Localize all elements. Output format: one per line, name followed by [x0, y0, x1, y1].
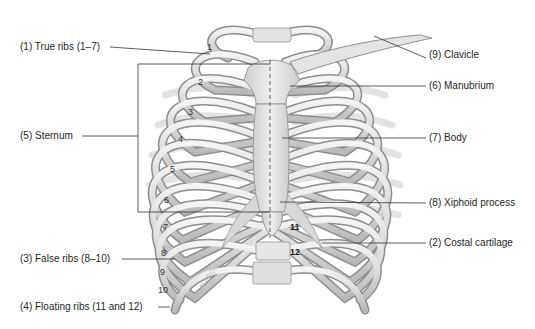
rib-number-2: 2: [198, 77, 203, 87]
rib-number-12: 12: [290, 247, 300, 257]
label-body: (7) Body: [429, 132, 467, 144]
rib-number-4: 4: [178, 134, 183, 144]
rib-number-11: 11: [290, 222, 300, 232]
label-xiphoid-process: (8) Xiphoid process: [429, 197, 515, 209]
rib-number-7: 7: [163, 222, 168, 232]
rib-number-5: 5: [170, 164, 175, 174]
rib-number-3: 3: [188, 107, 193, 117]
label-manubrium: (6) Manubrium: [429, 80, 494, 92]
label-floating-ribs: (4) Floating ribs (11 and 12): [20, 301, 143, 313]
rib-number-9: 9: [160, 267, 165, 277]
rib-number-6: 6: [164, 195, 169, 205]
label-true-ribs: (1) True ribs (1–7): [20, 41, 100, 53]
rib-number-10: 10: [158, 285, 168, 295]
rib-number-1: 1: [207, 42, 212, 52]
sternum-body-shape: [253, 104, 289, 212]
rib-number-8: 8: [161, 248, 166, 258]
label-costal-cartilage: (2) Costal cartilage: [429, 237, 513, 249]
rib-cage-figure: 1 2 3 4 5 6 7 8 9 10 11 12 (1) True ribs…: [0, 0, 535, 329]
label-false-ribs: (3) False ribs (8–10): [20, 253, 110, 265]
label-clavicle: (9) Clavicle: [429, 49, 479, 61]
label-sternum: (5) Sternum: [20, 130, 73, 142]
